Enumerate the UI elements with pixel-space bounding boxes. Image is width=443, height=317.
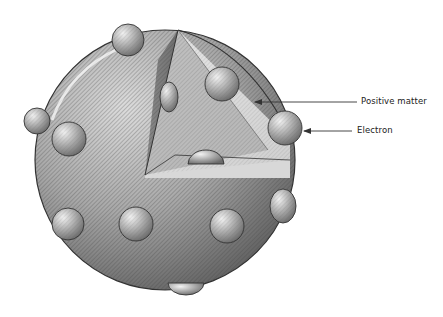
- electron-ball: [270, 189, 296, 223]
- electron-ball: [268, 111, 302, 145]
- electron-ball: [119, 207, 153, 241]
- electron-ball: [168, 283, 204, 295]
- electron-ball: [112, 24, 144, 56]
- electron-ball: [52, 208, 84, 240]
- electron-ball: [205, 67, 239, 101]
- electron-label: Electron: [357, 125, 393, 135]
- positive-matter-label: Positive matter: [361, 96, 427, 106]
- atom-diagram: [0, 0, 443, 317]
- electron-ball: [210, 209, 244, 243]
- electron-arrow: [303, 128, 352, 134]
- electron-ball: [24, 108, 50, 134]
- electron-ball: [52, 122, 86, 156]
- electron-ball: [160, 82, 178, 112]
